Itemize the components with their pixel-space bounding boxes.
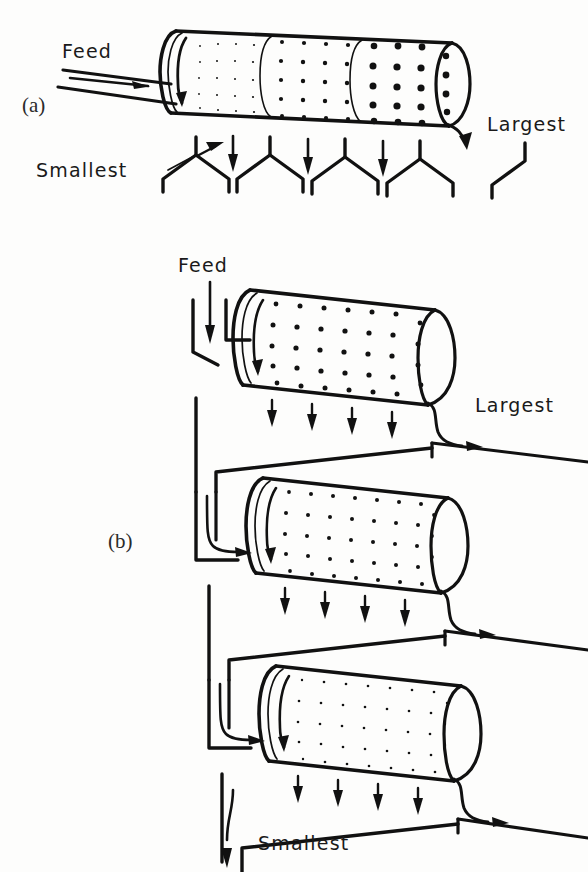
panel-a-section-3-apertures (370, 43, 451, 127)
panel-b-drum-2 (246, 478, 468, 593)
panel-b-drum-3-apertures (297, 679, 448, 774)
panel-b: (b) Feed (108, 254, 588, 872)
panel-a-drum (160, 31, 470, 126)
figure-root: (a) Feed (0, 0, 588, 872)
panel-a-smallest-label: Smallest (36, 159, 127, 181)
panel-a-section-2-apertures (279, 40, 350, 121)
panel-b-feed-chute-left (193, 300, 218, 365)
panel-b-stage-2-floor-right (445, 631, 588, 650)
panel-b-stage-1-undersize-arrows (267, 400, 397, 439)
panel-b-stage-3-undersize-arrows (293, 776, 423, 815)
panel-a-section-1-apertures (198, 43, 255, 113)
panel-a-oversize-discharge (446, 124, 472, 150)
panel-b-smallest-label: Smallest (258, 832, 349, 854)
panel-b-drum-3 (259, 666, 481, 781)
panel-b-largest-label: Largest (475, 394, 554, 416)
panel-b-stage-2-undersize-arrows (280, 588, 410, 627)
trommel-figure: (a) Feed (0, 0, 588, 872)
panel-b-smallest-curve (227, 790, 233, 840)
panel-b-stage-1: Feed (178, 254, 588, 492)
panel-b-drum-1 (233, 290, 455, 405)
panel-b-stage-3-floor-right (458, 819, 588, 838)
panel-b-stage-2-oversize-curve (441, 591, 475, 634)
panel-a-label: (a) (22, 93, 45, 117)
panel-a-feed-label: Feed (62, 40, 112, 62)
panel-b-drum-1-apertures (270, 302, 424, 397)
panel-b-stage-3-oversize-curve (454, 779, 488, 822)
panel-a: (a) Feed (22, 31, 566, 198)
panel-b-stage-3: Smallest (209, 666, 588, 872)
panel-a-rotation-arrowhead (176, 91, 187, 107)
panel-b-label: (b) (108, 529, 133, 553)
panel-a-largest-label: Largest (487, 113, 566, 135)
panel-b-stage-1-oversize-curve (428, 403, 462, 446)
panel-b-feed-label: Feed (178, 254, 228, 276)
panel-b-stage-2 (196, 478, 588, 680)
panel-b-stage-1-floor-right (432, 443, 588, 462)
panel-b-feed-arrowhead (205, 325, 215, 344)
panel-b-drum-2-apertures (283, 490, 436, 586)
